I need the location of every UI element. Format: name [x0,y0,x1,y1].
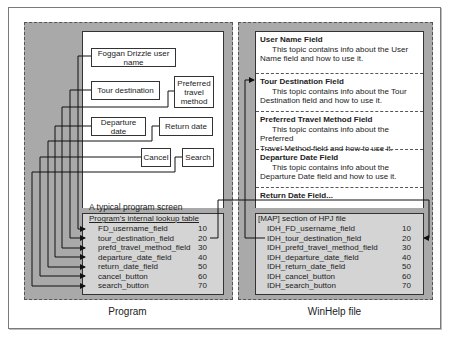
lookup-row-id: 70 [191,281,207,290]
travel-method-control: Preferred travel method [174,76,214,108]
lookup-row-name: tour_destination_field [98,234,174,243]
topic-desc: Name field and how to use it. [260,54,419,64]
topic-desc: This topic contains info about the Tour [272,87,407,96]
lookup-row-id: 10 [191,224,207,233]
map-row-name: IDH_prefd_travel_method_field [267,243,378,252]
lookup-row-name: cancel_button [98,272,148,281]
map-row-name: IDH_departure_date_field [267,253,359,262]
map-row-id: 50 [395,262,411,271]
topic-title: Return Date Field... [260,191,419,201]
lookup-row-name: departure_date_field [98,253,171,262]
map-row-name: IDH_search_button [267,281,336,290]
topic-desc: This topic contains info about the User [272,45,408,54]
map-row-name: IDH_cancel_button [267,272,335,281]
lookup-row-id: 20 [191,234,207,243]
winhelp-caption: WinHelp file [238,306,431,317]
lookup-row-id: 60 [191,272,207,281]
screen-label: A typical program screen [89,202,183,212]
topic-desc: Destination field and how to use it. [260,96,419,106]
map-row-name: IDH_return_date_field [267,262,345,271]
search-control: Search [182,148,214,167]
lookup-row-name: FD_username_field [98,224,168,233]
cancel-control: Cancel [141,148,171,167]
map-row-name: IDH_FD_username_field [267,224,355,233]
map-row-id: 70 [395,281,411,290]
map-row-id: 60 [395,272,411,281]
map-row-id: 20 [395,234,411,243]
program-caption: Program [24,306,231,317]
lookup-row-name: return_date_field [98,262,158,271]
topic-desc: Departure Date field and how to use it. [260,172,419,182]
topic-title: Departure Date Field [260,153,419,163]
topic-title: User Name Field [260,35,419,45]
tour-destination-control: Tour destination [91,81,160,100]
help-topic: Tour Destination Field This topic contai… [256,74,423,112]
username-control: Foggan Drizzle user name [91,48,176,67]
map-row-id: 40 [395,253,411,262]
topic-title: Preferred Travel Method Field [260,115,419,125]
map-row-id: 30 [395,243,411,252]
help-topic: Return Date Field... [256,188,423,208]
help-topics: User Name Field This topic contains info… [255,31,424,208]
topic-desc: This topic contains info about the Prefe… [260,125,389,144]
map-section-title: [MAP] section of HPJ file [258,214,346,223]
topic-desc: This topic contains info about the [272,163,389,172]
lookup-row-name: search_button [98,281,149,290]
lookup-row-name: prefd_travel_method_field [98,243,191,252]
lookup-row-id: 50 [191,262,207,271]
return-date-control: Return date [159,117,213,136]
lookup-table-title: Program's internal lookup table [89,214,199,223]
help-topic: User Name Field This topic contains info… [256,32,423,74]
help-topic: Departure Date Field This topic contains… [256,150,423,188]
lookup-row-id: 30 [191,243,207,252]
topic-title: Tour Destination Field [260,77,419,87]
departure-date-control: Departure date [91,117,146,136]
map-row-name: IDH_tour_destination_field [267,234,361,243]
help-topic: Preferred Travel Method Field This topic… [256,112,423,150]
lookup-row-id: 40 [191,253,207,262]
map-row-id: 10 [395,224,411,233]
